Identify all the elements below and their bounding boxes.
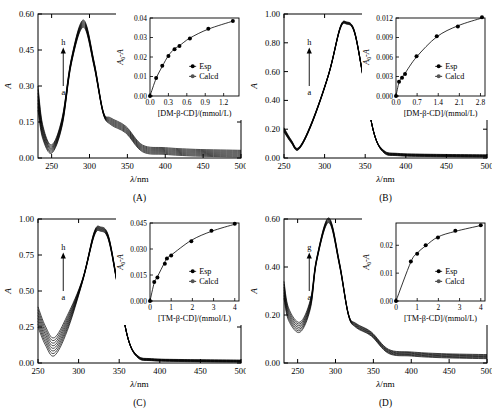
main-ytick-label: 0.20 xyxy=(265,310,280,320)
main-xaxis-label: λ/nm xyxy=(375,174,394,184)
panel-d-svg: 2503003504004505000.000.200.400.60λ/nmA(… xyxy=(246,205,492,410)
inset-data-point xyxy=(435,34,439,38)
main-ytick-label: 1.00 xyxy=(19,214,34,224)
inset-xaxis-label: [TM-β-CD]/(mmol/L) xyxy=(158,314,231,323)
main-xtick-label: 500 xyxy=(481,161,492,171)
inset-yaxis-label: A0-A xyxy=(362,253,372,271)
inset-ytick-label: 0.009 xyxy=(376,33,393,42)
legend-label-esp: Esp xyxy=(199,267,211,276)
main-yaxis-label: A xyxy=(3,288,13,295)
inset-xaxis-label: [TM-β-CD]/(mmol/L) xyxy=(404,314,477,323)
inset-ytick-label: 0.00 xyxy=(134,92,147,101)
inset-data-point xyxy=(231,19,235,23)
inset-data-point xyxy=(415,252,419,256)
panel-caption: (A) xyxy=(133,193,146,204)
inset-data-point xyxy=(415,54,419,58)
main-ytick-label: 0.15 xyxy=(19,117,34,127)
inset-xtick-label: 4 xyxy=(479,303,483,312)
main-xtick-label: 450 xyxy=(197,161,210,171)
main-ytick-label: 0.50 xyxy=(19,286,34,296)
main-ytick-label: 0.45 xyxy=(19,45,34,55)
main-xaxis-label: λ/nm xyxy=(375,379,394,389)
inset-data-point xyxy=(436,235,440,239)
inset-xaxis-label: [DM-β-CD]/(mmol/L) xyxy=(404,109,478,118)
legend-marker-esp xyxy=(437,269,441,273)
chart-panel-b: 2503003504004505000.000.200.400.600.801.… xyxy=(246,0,492,205)
main-ytick-label: 0.00 xyxy=(265,153,280,163)
inset-data-point xyxy=(456,24,460,28)
panel-b-svg: 2503003504004505000.000.200.400.600.801.… xyxy=(246,0,492,205)
inset-xtick-label: 4 xyxy=(233,303,237,312)
inset-plot: 012340.000.010.02[TM-β-CD]/(mmol/L)A0-AE… xyxy=(362,211,491,325)
main-xtick-label: 400 xyxy=(153,366,166,376)
inset-plot: 0.00.71.42.12.80.0000.0030.0060.0090.012… xyxy=(362,6,491,120)
inset-data-point xyxy=(424,243,428,247)
inset-yaxis-label: A0-A xyxy=(116,48,126,66)
inset-ytick-label: 0.000 xyxy=(130,297,147,306)
chart-panel-c: 2503003504004505000.000.250.500.751.00λ/… xyxy=(0,205,246,410)
inset-ytick-label: 0.000 xyxy=(376,92,393,101)
inset-xtick-label: 0.6 xyxy=(182,98,192,107)
inset-data-point xyxy=(148,299,152,303)
main-ytick-label: 0.00 xyxy=(265,358,280,368)
main-yaxis-label: A xyxy=(3,83,13,90)
series-direction-arrow: ha xyxy=(307,38,313,97)
main-ytick-label: 0.25 xyxy=(19,322,34,332)
inset-ytick-label: 0.04 xyxy=(134,14,147,23)
inset-xtick-label: 2 xyxy=(191,303,195,312)
inset-data-point xyxy=(173,47,177,51)
series-direction-arrow: ha xyxy=(61,243,67,302)
main-ytick-label: 0.40 xyxy=(265,95,280,105)
legend-marker-calcd xyxy=(191,74,195,78)
legend-marker-esp xyxy=(437,64,441,68)
inset-data-point xyxy=(397,80,401,84)
legend-marker-calcd xyxy=(437,279,441,283)
inset-xtick-label: 0 xyxy=(394,303,398,312)
inset-ytick-label: 0.02 xyxy=(134,53,147,62)
main-ytick-label: 0.60 xyxy=(19,9,34,19)
legend-label-calcd: Calcd xyxy=(445,277,464,286)
arrow-bottom-label: a xyxy=(61,88,65,97)
inset-xtick-label: 3 xyxy=(212,303,216,312)
inset-data-point xyxy=(409,259,413,263)
inset-data-point xyxy=(165,257,169,261)
inset-ytick-label: 0.01 xyxy=(134,72,147,81)
inset-data-point xyxy=(209,229,213,233)
inset-ytick-label: 0.012 xyxy=(376,14,393,23)
main-ytick-label: 0.75 xyxy=(19,250,34,260)
main-xtick-label: 450 xyxy=(194,366,207,376)
inset-ytick-label: 0.030 xyxy=(130,245,147,254)
main-ytick-label: 0.80 xyxy=(265,38,280,48)
inset-data-point xyxy=(177,44,181,48)
inset-data-point xyxy=(188,36,192,40)
legend-marker-calcd xyxy=(191,279,195,283)
inset-data-point xyxy=(233,222,237,226)
main-xtick-label: 350 xyxy=(113,366,126,376)
legend-label-calcd: Calcd xyxy=(199,72,218,81)
inset-xtick-label: 1.4 xyxy=(434,98,444,107)
main-xtick-label: 400 xyxy=(159,161,172,171)
main-xtick-label: 300 xyxy=(83,161,96,171)
inset-xtick-label: 0.7 xyxy=(412,98,422,107)
inset-plot: 0.00.30.60.91.20.000.010.020.030.04[DM-β… xyxy=(116,6,245,120)
main-xtick-label: 300 xyxy=(329,366,342,376)
main-ytick-label: 1.00 xyxy=(265,9,280,19)
legend-marker-calcd xyxy=(437,74,441,78)
panel-caption: (D) xyxy=(379,398,392,409)
inset-ytick-label: 0.003 xyxy=(376,72,393,81)
inset-data-point xyxy=(206,27,210,31)
arrow-top-label: g xyxy=(307,243,312,252)
chart-panel-a: 2503003504004505000.000.150.300.450.60λ/… xyxy=(0,0,246,205)
panel-c-svg: 2503003504004505000.000.250.500.751.00λ/… xyxy=(0,205,246,410)
inset-data-point xyxy=(394,299,398,303)
inset-data-point xyxy=(163,262,167,266)
inset-xtick-label: 2 xyxy=(437,303,441,312)
main-ytick-label: 0.20 xyxy=(265,124,280,134)
inset-xtick-label: 3 xyxy=(458,303,462,312)
arrow-bottom-label: a xyxy=(307,293,311,302)
arrow-top-label: h xyxy=(61,243,66,252)
inset-data-point xyxy=(152,280,156,284)
main-ytick-label: 0.60 xyxy=(265,214,280,224)
main-xtick-label: 400 xyxy=(405,366,418,376)
main-yaxis-label: A xyxy=(249,288,259,295)
